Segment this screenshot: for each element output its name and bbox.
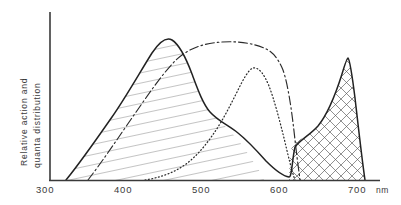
chart-figure: Relative action and quanta distribution … [0,0,401,205]
red-band-crosshatch [280,40,380,185]
plot-canvas [0,0,401,205]
